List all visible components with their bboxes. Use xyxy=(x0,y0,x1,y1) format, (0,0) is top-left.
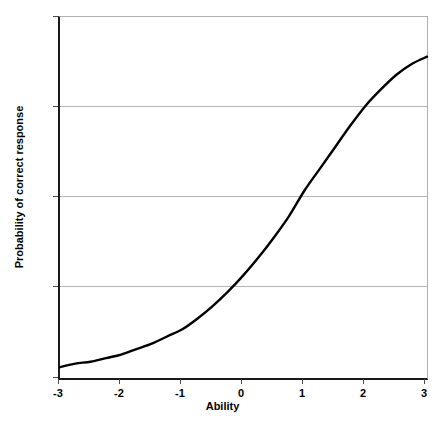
x-tick-label-0: 0 xyxy=(221,387,261,399)
curve-svg xyxy=(60,17,427,378)
x-tick-label--2: -2 xyxy=(99,387,139,399)
x-tick-label-3: 3 xyxy=(404,387,444,399)
chart-container: 1 0.75 0.5 0.25 0 Probability of correct… xyxy=(0,0,445,429)
x-tick-mark--1 xyxy=(180,379,181,384)
x-tick-mark-3 xyxy=(424,379,425,384)
x-tick-label-2: 2 xyxy=(343,387,383,399)
x-tick-mark-1 xyxy=(302,379,303,384)
plot-area xyxy=(58,16,428,380)
x-tick-mark-0 xyxy=(241,379,242,384)
x-tick-mark--2 xyxy=(119,379,120,384)
x-tick-label--3: -3 xyxy=(38,387,78,399)
x-tick-label-1: 1 xyxy=(282,387,322,399)
item-characteristic-curve xyxy=(60,57,427,367)
x-tick-mark-2 xyxy=(363,379,364,384)
x-axis-title: Ability xyxy=(0,400,445,412)
y-axis-title: Probability of correct response xyxy=(13,72,25,302)
x-tick-mark--3 xyxy=(58,379,59,384)
x-tick-label--1: -1 xyxy=(160,387,200,399)
